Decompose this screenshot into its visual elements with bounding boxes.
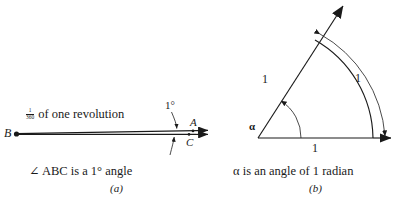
terminal-side-arrow bbox=[332, 6, 343, 23]
degree-leader-arrow-bottom bbox=[170, 137, 174, 155]
point-label-c: C bbox=[186, 137, 193, 148]
revolution-label-text: of one revolution bbox=[35, 107, 124, 121]
degree-leader-arrow-top bbox=[172, 112, 177, 129]
arc-length-label: 1 bbox=[355, 72, 361, 84]
fraction-denominator: 360 bbox=[26, 115, 34, 121]
fraction-of-revolution-label: 1 360 of one revolution bbox=[26, 108, 124, 121]
ray-ba-upper bbox=[17, 131, 197, 134]
panel-tag-a: (a) bbox=[110, 183, 123, 194]
radius-label-slant: 1 bbox=[262, 73, 268, 85]
fraction-one-over-three-sixty: 1 360 bbox=[26, 108, 34, 121]
one-degree-label: 1° bbox=[165, 100, 175, 111]
angle-label-alpha: α bbox=[249, 121, 255, 132]
unit-arc bbox=[315, 40, 373, 138]
caption-b: α is an angle of 1 radian bbox=[233, 165, 353, 178]
figure-root: 1 360 of one revolution 1° B A C ∠ ABC i… bbox=[0, 0, 412, 203]
caption-a: ∠ ABC is a 1° angle bbox=[29, 165, 132, 178]
panel-b-radian-figure: 1 1 1 α α is an angle of 1 radian (b) bbox=[215, 0, 412, 203]
panel-tag-b: (b) bbox=[309, 183, 322, 194]
vertex-label-b: B bbox=[4, 127, 11, 139]
fraction-numerator: 1 bbox=[26, 108, 34, 114]
point-label-a: A bbox=[190, 117, 197, 128]
panel-a-degree-figure: 1 360 of one revolution 1° B A C ∠ ABC i… bbox=[0, 0, 215, 203]
angle-arc-alpha bbox=[281, 101, 301, 138]
terminal-side-slant-radius bbox=[258, 23, 332, 138]
point-a-dot bbox=[192, 130, 195, 133]
radius-label-base: 1 bbox=[312, 142, 318, 154]
